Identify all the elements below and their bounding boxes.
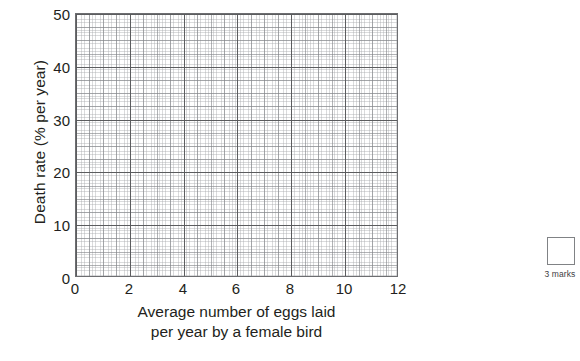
x-axis-title-line2: per year by a female bird [75,322,398,342]
marks-container: 3 marks [541,237,580,279]
graph-question-page: Death rate (% per year) 50 40 30 20 10 0… [0,0,580,361]
x-tick-label-0: 0 [55,281,95,296]
graph-plot-area[interactable] [75,13,398,277]
y-axis-tick-labels: 50 40 30 20 10 0 [28,0,70,361]
y-tick-label-10: 10 [28,218,70,233]
x-axis-title: Average number of eggs laid per year by … [75,302,398,342]
x-axis-tick-labels: 0 2 4 6 8 10 12 [0,281,580,301]
marks-answer-box[interactable] [547,237,575,265]
y-tick-label-30: 30 [28,113,70,128]
x-tick-label-8: 8 [270,281,310,296]
x-axis-title-line1: Average number of eggs laid [75,302,398,322]
y-tick-label-20: 20 [28,165,70,180]
y-tick-label-50: 50 [28,7,70,22]
y-tick-label-40: 40 [28,60,70,75]
marks-label: 3 marks [539,269,580,279]
x-tick-label-6: 6 [216,281,256,296]
x-tick-label-4: 4 [163,281,203,296]
x-tick-label-10: 10 [324,281,364,296]
x-tick-label-12: 12 [378,281,418,296]
x-tick-label-2: 2 [109,281,149,296]
